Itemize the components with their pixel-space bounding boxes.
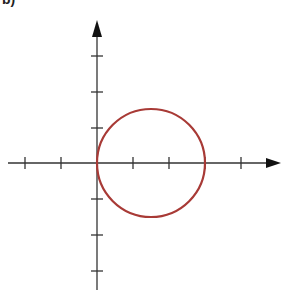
x-axis-arrow-icon	[266, 158, 281, 168]
y-axis-arrow-icon	[92, 20, 102, 37]
coordinate-plane	[0, 0, 287, 295]
